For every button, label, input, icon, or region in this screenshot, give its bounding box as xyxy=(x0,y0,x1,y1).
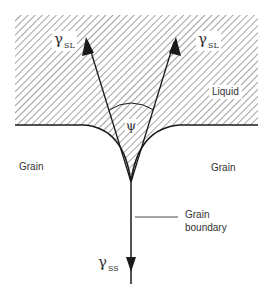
gamma-symbol: γ xyxy=(198,30,207,48)
gamma-sl-right-label: γSL xyxy=(196,31,221,51)
grain-right-label: Grain xyxy=(211,163,235,173)
grain-boundary-label-line2: boundary xyxy=(185,221,227,234)
dihedral-angle-diagram xyxy=(0,0,271,296)
subscript-sl: SL xyxy=(64,41,75,50)
grain-left-label: Grain xyxy=(19,162,43,172)
subscript-ss: SS xyxy=(108,264,119,273)
gamma-sl-left-label: γSL xyxy=(52,31,77,51)
gamma-symbol: γ xyxy=(98,253,107,271)
subscript-sl: SL xyxy=(208,41,219,50)
liquid-label: Liquid xyxy=(209,85,242,99)
psi-label: ψ xyxy=(125,119,137,132)
gamma-symbol: γ xyxy=(54,30,63,48)
gamma-ss-arrowhead xyxy=(126,257,136,272)
grain-boundary-label: Grain boundary xyxy=(185,208,227,234)
gamma-ss-label: γSS xyxy=(98,255,119,273)
grain-boundary-label-line1: Grain xyxy=(185,208,227,221)
